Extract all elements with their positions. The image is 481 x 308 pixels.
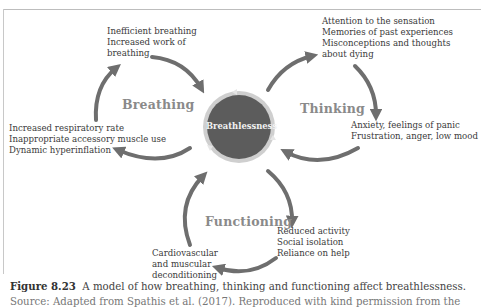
node-line: Inefficient breathing xyxy=(107,26,197,37)
node-thinking-right: Anxiety, feelings of panic Frustration, … xyxy=(351,120,478,142)
node-breathing-left: Increased respiratory rate Inappropriate… xyxy=(9,123,166,156)
node-line: Social isolation xyxy=(277,237,350,248)
node-line: Frustration, anger, low mood xyxy=(351,131,478,142)
node-line: Reduced activity xyxy=(277,226,350,237)
section-label-breathing: Breathing xyxy=(122,97,194,112)
breathlessness-label: Breathlessness xyxy=(206,121,272,131)
node-line: Misconceptions and thoughts xyxy=(322,38,453,49)
node-line: Inappropriate accessory muscle use xyxy=(9,134,166,145)
node-line: Increased respiratory rate xyxy=(9,123,166,134)
figure-caption: Figure 8.23 A model of how breathing, th… xyxy=(10,280,466,292)
node-line: Cardiovascular xyxy=(152,248,218,259)
node-line: Increased work of xyxy=(107,37,197,48)
node-line: Reliance on help xyxy=(277,248,350,259)
figure-source: Source: Adapted from Spathis et al. (201… xyxy=(10,296,460,307)
node-line: Memories of past experiences xyxy=(322,27,453,38)
arrow-breathing-left-to-top xyxy=(96,68,116,120)
node-line: Attention to the sensation xyxy=(322,16,453,27)
node-functioning-left: Cardiovascular and muscular deconditioni… xyxy=(152,248,218,281)
arrow-thinking-right-to-center xyxy=(286,148,358,160)
node-line: Anxiety, feelings of panic xyxy=(351,120,478,131)
figure-number: Figure 8.23 xyxy=(10,280,76,292)
arrow-breathing-top-to-center xyxy=(152,57,201,88)
node-line: and muscular xyxy=(152,259,218,270)
node-line: about dying xyxy=(322,49,453,60)
arrow-center-to-thinking-top xyxy=(268,56,312,90)
node-thinking-top: Attention to the sensation Memories of p… xyxy=(322,16,453,60)
arrow-functioning-left-to-center xyxy=(185,176,203,245)
node-breathing-top: Inefficient breathing Increased work of … xyxy=(107,26,197,59)
section-label-thinking: Thinking xyxy=(300,101,365,116)
node-line: Dynamic hyperinflation xyxy=(9,145,166,156)
figure-caption-text: A model of how breathing, thinking and f… xyxy=(82,281,466,292)
arrow-functioning-right-to-left xyxy=(218,258,276,271)
node-line: breathing xyxy=(107,48,197,59)
node-functioning-right: Reduced activity Social isolation Relian… xyxy=(277,226,350,259)
